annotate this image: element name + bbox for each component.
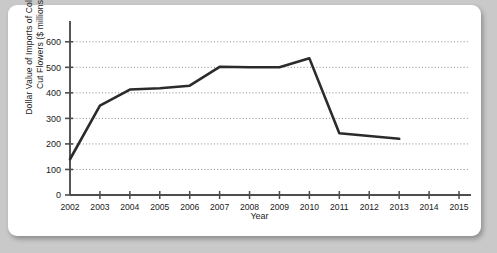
gridlines — [70, 42, 469, 170]
axes — [70, 21, 471, 195]
y-tick-label: 500 — [46, 63, 61, 73]
y-tick-label: 0 — [56, 190, 61, 200]
y-tick-label: 200 — [46, 139, 61, 149]
y-tick-label: 400 — [46, 88, 61, 98]
line-chart-svg: 0100200300400500600200220032004200520062… — [8, 5, 481, 236]
data-series-line — [70, 58, 399, 159]
chart-plot-area: Dollar Value of Imports of Colombian Cut… — [8, 5, 481, 236]
y-axis-ticks: 0100200300400500600 — [46, 37, 73, 200]
x-axis-label: Year — [8, 211, 481, 221]
y-tick-label: 600 — [46, 37, 61, 47]
y-tick-label: 100 — [46, 165, 61, 175]
y-tick-label: 300 — [46, 114, 61, 124]
figure-card: Dollar Value of Imports of Colombian Cut… — [8, 5, 481, 236]
